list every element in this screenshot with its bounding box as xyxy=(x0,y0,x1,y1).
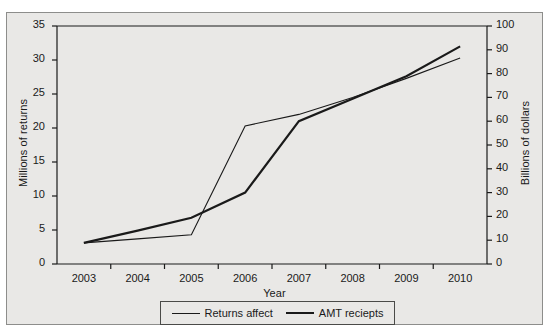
y-axis-right-tick-label: 70 xyxy=(496,89,528,101)
y-axis-left-tick-label: 30 xyxy=(17,52,45,64)
y-axis-left-tick-label: 20 xyxy=(17,120,45,132)
series-line-amt-reciepts xyxy=(84,46,460,243)
x-axis-tick-label: 2007 xyxy=(273,272,325,284)
y-axis-left-ticks xyxy=(52,26,57,264)
y-axis-right-tick-label: 100 xyxy=(496,18,528,30)
x-axis-tick-label: 2006 xyxy=(219,272,271,284)
chart-figure: Millions of returns Billions of dollars … xyxy=(0,0,549,333)
y-axis-right-tick-label: 0 xyxy=(496,256,528,268)
chart-legend: Returns affectAMT reciepts xyxy=(160,301,395,325)
series-line-returns-affect xyxy=(84,58,460,243)
y-axis-right-tick-label: 30 xyxy=(496,185,528,197)
legend-entry[interactable]: Returns affect xyxy=(172,307,273,319)
y-axis-right-tick-label: 50 xyxy=(496,137,528,149)
x-axis-tick-label: 2005 xyxy=(165,272,217,284)
x-axis-title: Year xyxy=(0,287,549,299)
legend-entry[interactable]: AMT reciepts xyxy=(286,307,384,319)
legend-line-swatch xyxy=(172,313,200,314)
x-axis-ticks xyxy=(111,264,434,269)
y-axis-left-tick-label: 10 xyxy=(17,188,45,200)
x-axis-tick-label: 2008 xyxy=(327,272,379,284)
y-axis-left-tick-label: 5 xyxy=(17,222,45,234)
y-axis-right-ticks xyxy=(487,26,492,264)
legend-line-swatch xyxy=(286,312,314,314)
y-axis-right-tick-label: 40 xyxy=(496,161,528,173)
x-axis-tick-label: 2009 xyxy=(380,272,432,284)
y-axis-right-tick-label: 20 xyxy=(496,208,528,220)
x-axis-tick-label: 2010 xyxy=(434,272,486,284)
legend-label: Returns affect xyxy=(205,307,273,319)
y-axis-left-tick-label: 15 xyxy=(17,154,45,166)
legend-label: AMT reciepts xyxy=(319,307,384,319)
x-axis-tick-label: 2003 xyxy=(58,272,110,284)
x-axis-tick-label: 2004 xyxy=(112,272,164,284)
y-axis-right-tick-label: 80 xyxy=(496,66,528,78)
y-axis-right-tick-label: 10 xyxy=(496,232,528,244)
y-axis-left-tick-label: 25 xyxy=(17,86,45,98)
y-axis-right-tick-label: 60 xyxy=(496,113,528,125)
y-axis-left-tick-label: 35 xyxy=(17,18,45,30)
y-axis-left-tick-label: 0 xyxy=(17,256,45,268)
y-axis-right-tick-label: 90 xyxy=(496,42,528,54)
